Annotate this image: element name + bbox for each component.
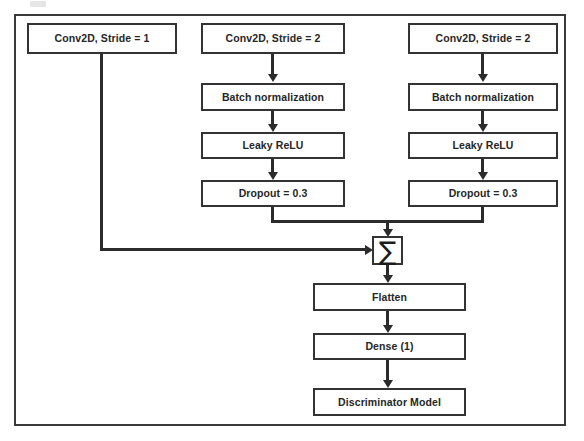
connector-dense-to-output: [386, 360, 389, 382]
node-batch-normalization-middle[interactable]: Batch normalization: [201, 83, 345, 111]
connector-right-conv-to-batchnorm: [481, 54, 484, 76]
connector-left-vertical: [100, 54, 103, 251]
node-conv2d-stride-1[interactable]: Conv2D, Stride = 1: [27, 23, 177, 54]
node-leaky-relu-right[interactable]: Leaky ReLU: [408, 132, 558, 159]
connector-left-horizontal: [100, 248, 366, 251]
node-label: Conv2D, Stride = 1: [55, 33, 150, 44]
summation-sigma-icon: ∑: [379, 238, 397, 264]
node-label: Leaky ReLU: [452, 140, 513, 151]
arrow-mid-2-icon: [268, 124, 278, 132]
arrow-tail-1-icon: [383, 275, 393, 283]
node-label: Dense (1): [365, 341, 413, 352]
arrow-mid-1-icon: [268, 74, 278, 82]
node-dropout-middle[interactable]: Dropout = 0.3: [201, 180, 345, 207]
node-label: Leaky ReLU: [242, 140, 303, 151]
scan-artifact: [30, 1, 46, 7]
node-conv2d-stride-2-right[interactable]: Conv2D, Stride = 2: [408, 23, 558, 54]
node-label: Dropout = 0.3: [239, 188, 308, 199]
node-label: Flatten: [372, 292, 407, 303]
sum-node[interactable]: ∑: [372, 236, 403, 265]
node-label: Batch normalization: [222, 92, 324, 103]
node-flatten[interactable]: Flatten: [313, 283, 466, 311]
node-batch-normalization-right[interactable]: Batch normalization: [408, 83, 558, 111]
node-label: Dropout = 0.3: [449, 188, 518, 199]
node-label: Conv2D, Stride = 2: [436, 33, 531, 44]
node-dropout-right[interactable]: Dropout = 0.3: [408, 180, 558, 207]
arrow-tail-3-icon: [383, 380, 393, 388]
node-leaky-relu-middle[interactable]: Leaky ReLU: [201, 132, 345, 159]
node-dense[interactable]: Dense (1): [313, 333, 466, 360]
arrow-tail-2-icon: [383, 325, 393, 333]
arrow-right-1-icon: [478, 74, 488, 82]
arrow-right-3-icon: [478, 172, 488, 180]
connector-merge-bar: [271, 220, 484, 223]
node-label: Conv2D, Stride = 2: [226, 33, 321, 44]
node-discriminator-model[interactable]: Discriminator Model: [313, 388, 466, 416]
arrow-mid-3-icon: [268, 172, 278, 180]
node-label: Batch normalization: [432, 92, 534, 103]
node-conv2d-stride-2-middle[interactable]: Conv2D, Stride = 2: [201, 23, 345, 54]
diagram-canvas: Conv2D, Stride = 1 Conv2D, Stride = 2 Ba…: [0, 0, 584, 441]
connector-mid-conv-to-batchnorm: [271, 54, 274, 76]
node-label: Discriminator Model: [338, 397, 441, 408]
arrow-right-2-icon: [478, 124, 488, 132]
